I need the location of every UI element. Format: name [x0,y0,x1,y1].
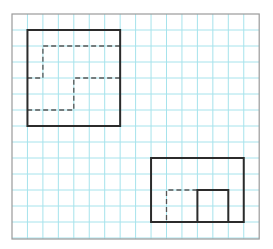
graph-paper-diagram [0,0,273,249]
